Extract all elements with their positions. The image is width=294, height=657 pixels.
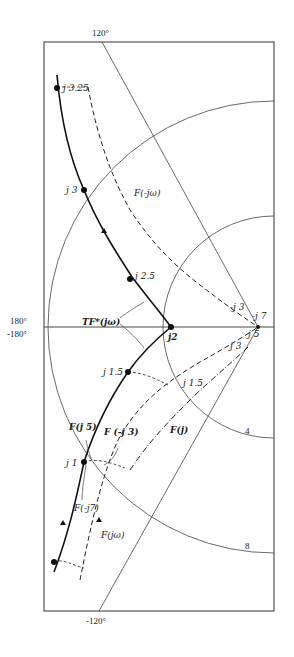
label-f-j: F(j) — [169, 425, 188, 435]
point-j325 — [54, 85, 60, 91]
arrow-f-jw — [96, 517, 102, 522]
point-j3 — [81, 187, 87, 193]
label-minus-180: -180° — [7, 329, 27, 339]
label-j15: j 1.5 — [101, 367, 123, 377]
label-j25: j 2.5 — [133, 271, 155, 281]
label-j5: j 5 — [246, 329, 260, 339]
label-f-minus-j3: F (-j 3) — [103, 427, 138, 437]
connector-j15 — [128, 372, 168, 385]
frequency-diagram: 120° 180° -180° -120° 4 8 j 3.25 j 3 j 2… — [0, 0, 294, 657]
point-j1 — [81, 459, 87, 465]
label-j2: j2 — [166, 332, 178, 342]
label-minus-120: -120° — [86, 616, 106, 626]
curve-f-jw — [80, 327, 258, 580]
label-f-jw: F(jω) — [100, 530, 125, 540]
leader-tf-upper — [120, 302, 144, 318]
leader-f-minus-j3 — [104, 448, 118, 465]
curve-f-j — [130, 347, 248, 470]
plot-frame — [44, 42, 274, 611]
point-j25 — [127, 276, 133, 282]
connector-j1 — [84, 460, 125, 468]
label-minus-j3: -j 3 — [230, 302, 245, 312]
label-circle-4: 4 — [245, 426, 250, 436]
arrow-tf-lower — [60, 520, 66, 525]
curve-tf-upper — [57, 75, 171, 327]
label-circle-8: 8 — [245, 541, 250, 551]
radial-line-120 — [102, 42, 258, 327]
point-j15 — [125, 369, 131, 375]
curve-f-minus-jw — [88, 87, 258, 327]
point-j2 — [168, 324, 174, 330]
label-j325: j 3.25 — [61, 83, 89, 93]
label-minus-j7: -j 7 — [252, 311, 267, 321]
label-j3: j 3 — [64, 185, 78, 195]
label-tf-star: TF*(jω) — [82, 317, 120, 327]
label-j15-lower: j 1.5 — [181, 378, 203, 388]
point-bottom — [51, 559, 57, 565]
label-j3-lower: j 3 — [228, 341, 242, 351]
leader-tf-lower — [120, 324, 144, 348]
label-f-minus-j7: F(-j7) — [73, 503, 99, 513]
label-180: 180° — [10, 316, 28, 326]
label-120: 120° — [92, 28, 110, 38]
label-j1: j 1 — [64, 458, 77, 468]
label-f-j5: F(j 5) — [68, 422, 97, 432]
label-f-minus-jw: F(-jω) — [133, 188, 161, 198]
